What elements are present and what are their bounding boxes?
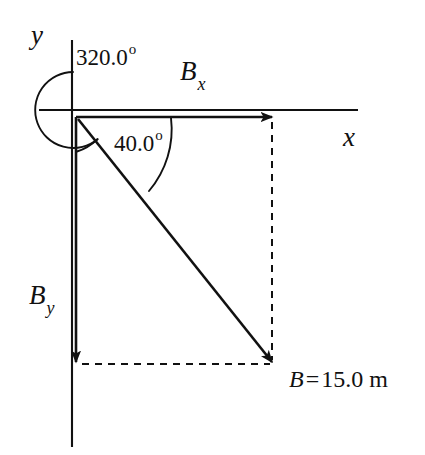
bx-component-label: Bx xyxy=(180,58,205,89)
magnitude-symbol: B xyxy=(289,366,304,392)
angle-320-degree-symbol: o xyxy=(129,41,137,57)
angle-40-value: 40.0 xyxy=(114,131,154,156)
bx-subscript: x xyxy=(198,74,206,94)
y-axis-label: y xyxy=(31,22,43,49)
angle-40-degree-symbol: o xyxy=(155,127,163,143)
angle-40-label: 40.0o xyxy=(114,130,162,155)
magnitude-label: B=15.0 m xyxy=(289,367,388,391)
angle-320-arc-group xyxy=(35,72,97,152)
bx-symbol: B xyxy=(180,56,197,86)
b-resultant-vector-arrow xyxy=(78,119,272,362)
magnitude-value: 15.0 xyxy=(321,366,363,392)
angle-320-label: 320.0o xyxy=(76,44,135,69)
x-axis-label: x xyxy=(343,124,355,151)
magnitude-unit-text: m xyxy=(369,366,388,392)
vector-diagram-figure: y x 320.0o 40.0o Bx By B=15.0 m xyxy=(0,0,425,455)
by-subscript: y xyxy=(47,298,55,318)
by-component-label: By xyxy=(29,282,54,313)
by-symbol: B xyxy=(29,280,46,310)
magnitude-equals: = xyxy=(304,366,322,392)
angle-320-value: 320.0 xyxy=(76,45,128,70)
